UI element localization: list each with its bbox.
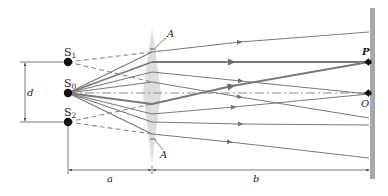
- label-d: d: [27, 87, 33, 98]
- biprism-diagram: S1 S0 S2 A A P O d a b: [0, 0, 388, 196]
- label-s1: S1: [64, 46, 76, 60]
- dimension-ab: [68, 126, 369, 174]
- label-p: P: [361, 46, 370, 57]
- apex-top-leader: [155, 38, 166, 48]
- label-b: b: [253, 173, 259, 184]
- point-o: [366, 90, 371, 95]
- label-s0: S0: [64, 77, 77, 91]
- label-apex-bottom: A: [159, 149, 167, 160]
- label-o: O: [361, 98, 369, 109]
- label-a: a: [107, 173, 113, 184]
- point-p: [366, 59, 371, 64]
- label-s2: S2: [64, 106, 77, 120]
- label-apex-top: A: [166, 28, 174, 39]
- refracted-rays: [152, 32, 369, 158]
